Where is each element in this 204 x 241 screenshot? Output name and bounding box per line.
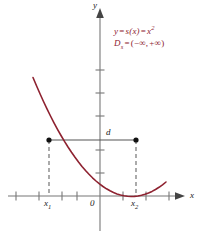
domain-symbol: D bbox=[114, 38, 121, 48]
function-notation: s(x) bbox=[125, 26, 139, 36]
parabola-figure: y x 0 x1 x2 d y=s(x)=x2 Ds=(−∞, +∞) bbox=[0, 0, 204, 241]
distance-label: d bbox=[106, 128, 111, 137]
point-marker-x1 bbox=[46, 137, 51, 142]
x-axis-arrow bbox=[175, 192, 185, 200]
x-axis-label: x bbox=[190, 191, 194, 200]
interval-comma: , bbox=[146, 38, 148, 48]
x1-label-subscript: 1 bbox=[48, 203, 51, 210]
y-axis-label: y bbox=[93, 1, 97, 10]
negative-infinity: −∞ bbox=[134, 38, 146, 48]
y-axis-arrow bbox=[96, 8, 104, 18]
equation-annotation: y=s(x)=x2 Ds=(−∞, +∞) bbox=[114, 22, 164, 53]
equals-sign-3: = bbox=[123, 38, 130, 48]
plot-canvas bbox=[0, 0, 204, 241]
domain-line: Ds=(−∞, +∞) bbox=[114, 37, 164, 53]
point-marker-x2 bbox=[133, 137, 138, 142]
function-equation-line: y=s(x)=x2 bbox=[114, 22, 164, 37]
function-expression-exponent: 2 bbox=[151, 24, 154, 31]
origin-label: 0 bbox=[90, 199, 95, 208]
positive-infinity: +∞ bbox=[149, 38, 161, 48]
interval-close-paren: ) bbox=[161, 38, 164, 48]
equals-sign-2: = bbox=[140, 26, 147, 36]
x2-label-subscript: 2 bbox=[135, 203, 138, 210]
x1-label: x1 bbox=[44, 199, 51, 210]
x2-label: x2 bbox=[131, 199, 138, 210]
